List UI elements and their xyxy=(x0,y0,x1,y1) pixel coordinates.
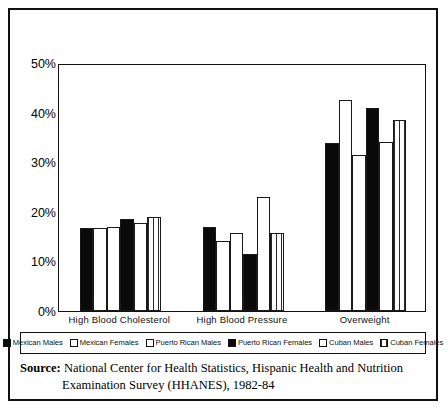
figure-frame: 0%10%20%30%40%50% High Blood Cholesterol… xyxy=(8,8,438,401)
bar xyxy=(366,108,380,311)
legend-item: Puerto Rican Females xyxy=(228,339,312,347)
x-axis-category-label: High Blood Pressure xyxy=(181,314,304,325)
bar xyxy=(352,155,366,311)
legend-item: Puerto Rican Males xyxy=(146,339,221,347)
legend-swatch-cuban-males xyxy=(319,339,327,347)
legend-item-label: Puerto Rican Females xyxy=(238,339,312,347)
bar xyxy=(120,219,134,311)
y-axis-tick-label: 30% xyxy=(16,157,56,170)
legend-item-label: Cuban Males xyxy=(329,339,373,347)
legend-swatch-mexican-females xyxy=(70,339,78,347)
x-axis-category-label: Overweight xyxy=(303,314,426,325)
legend-item-label: Mexican Females xyxy=(80,339,139,347)
bar xyxy=(93,228,107,311)
bar xyxy=(80,228,94,311)
legend-swatch-puerto-rican-males xyxy=(146,339,154,347)
bar xyxy=(243,254,257,311)
plot-area xyxy=(58,64,426,312)
source-text-line-1: National Center for Health Statistics, H… xyxy=(64,361,403,375)
bar xyxy=(107,227,121,311)
bar xyxy=(147,217,161,311)
bar xyxy=(325,143,339,311)
legend-swatch-cuban-females xyxy=(380,339,388,347)
legend-item-label: Mexican Males xyxy=(13,339,63,347)
source-text-line-2: Examination Survey (HHANES), 1982-84 xyxy=(62,377,430,394)
chart-area: 0%10%20%30%40%50% High Blood Cholesterol… xyxy=(10,10,440,326)
legend-swatch-puerto-rican-females xyxy=(228,339,236,347)
chart-legend: Mexican MalesMexican FemalesPuerto Rican… xyxy=(20,332,426,354)
bar xyxy=(257,197,271,311)
bar xyxy=(230,233,244,311)
x-axis-category-label: High Blood Cholesterol xyxy=(58,314,181,325)
bar xyxy=(339,100,353,311)
legend-items-row: Mexican MalesMexican FemalesPuerto Rican… xyxy=(0,339,447,347)
legend-swatch-mexican-males xyxy=(3,339,11,347)
y-axis-tick-label: 0% xyxy=(16,306,56,319)
bar-group xyxy=(325,65,406,311)
source-line-1: Source: National Center for Health Stati… xyxy=(20,360,430,377)
y-axis-tick-label: 40% xyxy=(16,107,56,120)
x-axis-category-labels: High Blood CholesterolHigh Blood Pressur… xyxy=(58,314,426,330)
legend-item: Cuban Females xyxy=(380,339,443,347)
y-axis-tick-label: 50% xyxy=(16,58,56,71)
legend-item-label: Puerto Rican Males xyxy=(156,339,221,347)
legend-item-label: Cuban Females xyxy=(390,339,443,347)
y-axis-tick-label: 10% xyxy=(16,256,56,269)
bar xyxy=(270,233,284,311)
legend-item: Mexican Males xyxy=(3,339,63,347)
bar xyxy=(203,227,217,311)
bars-container xyxy=(59,65,425,311)
y-axis-tick-labels: 0%10%20%30%40%50% xyxy=(14,10,56,326)
source-label: Source: xyxy=(20,361,61,375)
source-note: Source: National Center for Health Stati… xyxy=(20,360,430,394)
bar-group xyxy=(203,65,284,311)
bar xyxy=(379,142,393,311)
legend-item: Mexican Females xyxy=(70,339,139,347)
bar-group xyxy=(80,65,161,311)
legend-item: Cuban Males xyxy=(319,339,373,347)
bar xyxy=(216,241,230,311)
y-axis-tick-label: 20% xyxy=(16,207,56,220)
bar xyxy=(393,120,407,311)
bar xyxy=(134,223,148,311)
